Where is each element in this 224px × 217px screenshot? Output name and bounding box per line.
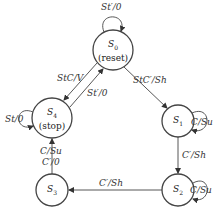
state-s3: S3 bbox=[37, 184, 67, 198]
label-s4-self: St/0 bbox=[5, 114, 24, 124]
state-s0-sub: 0 bbox=[114, 44, 118, 51]
label-s0-s4: StC/V bbox=[57, 73, 83, 83]
label-s0-s1: StC′/Sh bbox=[133, 75, 167, 85]
state-s2: S2 bbox=[163, 184, 193, 198]
label-s1-self: C/Su bbox=[191, 117, 213, 127]
label-s1-s2: C′/Sh bbox=[182, 150, 206, 160]
label-s2-self: C/Su bbox=[190, 185, 212, 195]
label-s3-s4-b: C′/0 bbox=[42, 157, 60, 167]
state-s0: S0 (reset) bbox=[93, 39, 133, 63]
state-diagram: S0 (reset) S4 (stop) S1 S2 S3 St′/0 StC′… bbox=[0, 0, 224, 217]
state-s4: S4 (stop) bbox=[32, 107, 72, 131]
state-s3-sub: 3 bbox=[53, 189, 57, 196]
edge-s0-s1 bbox=[124, 67, 167, 108]
label-s0-self: St′/0 bbox=[101, 2, 122, 12]
label-s4-s0: St′/0 bbox=[87, 88, 108, 98]
state-s1-sub: 1 bbox=[179, 120, 183, 127]
state-s1: S1 bbox=[163, 115, 193, 129]
label-s3-s4-a: C/Su bbox=[40, 146, 62, 156]
state-s4-desc: (stop) bbox=[39, 121, 65, 131]
state-s0-desc: (reset) bbox=[98, 53, 128, 63]
state-s4-sub: 4 bbox=[53, 112, 57, 119]
label-s2-s3: C′/Sh bbox=[99, 178, 123, 188]
state-s2-sub: 2 bbox=[179, 189, 183, 196]
